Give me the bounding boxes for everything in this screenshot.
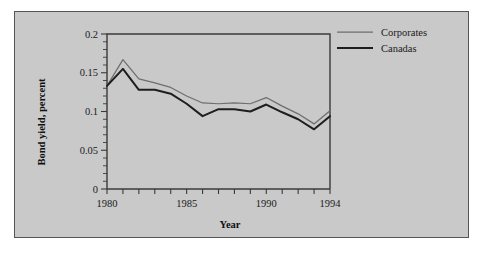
plot-frame xyxy=(107,34,330,189)
y-axis-ticks xyxy=(101,34,107,189)
x-tick-label: 1980 xyxy=(97,198,118,209)
series-line-canadas xyxy=(107,69,330,129)
y-tick-label: 0.2 xyxy=(85,29,98,40)
y-tick-label: 0.1 xyxy=(85,106,98,117)
x-axis-ticks xyxy=(107,189,330,194)
x-tick-label: 1990 xyxy=(256,198,277,209)
axis-lines xyxy=(107,34,330,189)
x-axis-title: Year xyxy=(220,219,241,230)
bond-yield-line-chart: 00.050.10.150.2 1980198519901994 Year Bo… xyxy=(15,12,470,239)
y-tick-label: 0.05 xyxy=(80,145,98,156)
legend-label-canadas: Canadas xyxy=(381,43,417,54)
y-axis-tick-labels: 00.050.10.150.2 xyxy=(80,29,98,195)
legend: Corporates Canadas xyxy=(337,27,427,54)
series-line-corporates xyxy=(107,60,330,124)
y-tick-label: 0.15 xyxy=(80,67,98,78)
x-tick-label: 1985 xyxy=(176,198,197,209)
y-axis-title: Bond yield, percent xyxy=(36,78,47,166)
series-group xyxy=(107,60,330,130)
x-tick-label: 1994 xyxy=(320,198,342,209)
y-tick-label: 0 xyxy=(93,184,98,195)
figure-panel: 00.050.10.150.2 1980198519901994 Year Bo… xyxy=(14,11,469,238)
x-axis-tick-labels: 1980198519901994 xyxy=(97,198,342,209)
legend-label-corporates: Corporates xyxy=(381,27,427,38)
